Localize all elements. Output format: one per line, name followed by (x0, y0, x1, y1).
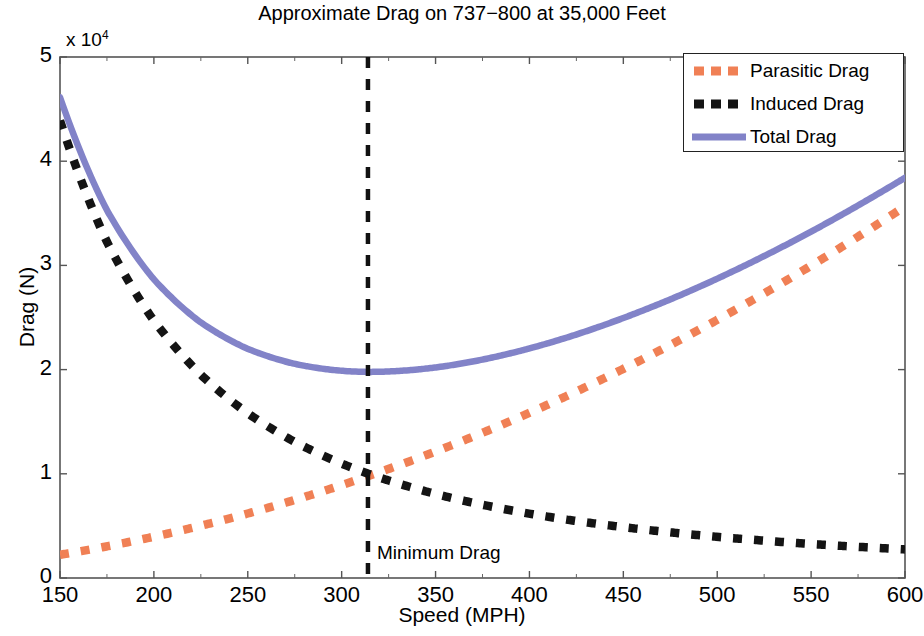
legend-swatch-icon (692, 127, 746, 147)
x-tick-label: 200 (114, 582, 194, 608)
x-tick-label: 350 (396, 582, 476, 608)
x-tick-label: 300 (302, 582, 382, 608)
x-tick-label: 600 (865, 582, 924, 608)
drag-chart-figure: Approximate Drag on 737−800 at 35,000 Fe… (0, 0, 924, 636)
chart-legend: Parasitic DragInduced DragTotal Drag (683, 53, 904, 152)
y-tick-label: 2 (10, 355, 52, 381)
legend-swatch-icon (692, 94, 746, 114)
series-line-parasitic-drag (60, 206, 905, 554)
legend-item-parasitic-drag[interactable]: Parasitic Drag (684, 54, 905, 87)
legend-item-total-drag[interactable]: Total Drag (684, 120, 905, 153)
x-tick-label: 250 (208, 582, 288, 608)
y-tick-label: 3 (10, 250, 52, 276)
y-tick-label: 4 (10, 146, 52, 172)
x-tick-label: 450 (583, 582, 663, 608)
legend-swatch-icon (692, 61, 746, 81)
legend-item-label: Parasitic Drag (750, 61, 869, 80)
y-tick-label: 0 (10, 563, 52, 589)
x-tick-label: 500 (677, 582, 757, 608)
legend-item-label: Induced Drag (750, 94, 864, 113)
x-tick-label: 550 (771, 582, 851, 608)
y-tick-label: 1 (10, 459, 52, 485)
legend-item-label: Total Drag (750, 127, 837, 146)
y-tick-label: 5 (10, 42, 52, 68)
x-tick-label: 400 (489, 582, 569, 608)
legend-item-induced-drag[interactable]: Induced Drag (684, 87, 905, 120)
series-line-induced-drag (60, 121, 905, 550)
